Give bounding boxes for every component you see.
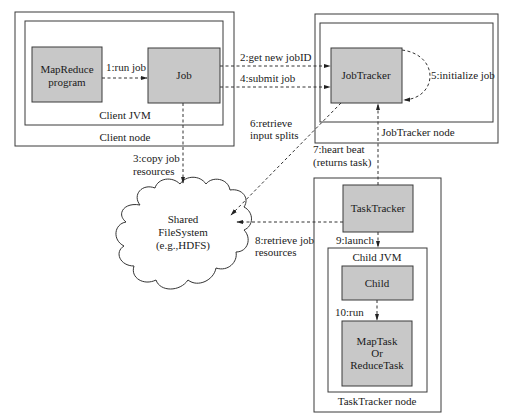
jobtracker-box: JobTracker (331, 48, 402, 103)
edge-submit-job: 4:submit job (220, 72, 330, 87)
edge-run-job-label: 1:run job (106, 61, 147, 73)
job-box: Job (148, 48, 220, 103)
mapreduce-program-label-1: MapReduce (40, 63, 93, 75)
task-label-1: MapTask (357, 335, 398, 347)
edge-retrieve-input-splits-label-1: 6:retrieve (250, 117, 292, 129)
edge-retrieve-job-resources-label-1: 8:retrieve job (255, 234, 314, 246)
edge-initialize-job-label: 5:initialize job (431, 69, 495, 81)
jobtracker-node-label: JobTracker node (381, 126, 454, 138)
edge-retrieve-job-resources-label-2: resources (255, 246, 297, 258)
shared-fs-label-3: (e.g.,HDFS) (156, 239, 210, 252)
child-label: Child (365, 277, 390, 289)
edge-run-label: 10:run (335, 306, 364, 318)
edge-copy-job-resources-label-2: resources (133, 165, 175, 177)
edge-retrieve-input-splits-label-2: input splits (250, 129, 299, 141)
edge-get-new-jobid: 2:get new jobID (220, 51, 330, 66)
job-label: Job (176, 69, 192, 81)
edge-run-job: 1:run job (102, 61, 147, 78)
shared-fs-label-1: Shared (168, 213, 199, 225)
client-node-label: Client node (99, 131, 150, 143)
edge-heart-beat: 7:heart beat (returns task) (313, 104, 378, 185)
edge-heart-beat-label-1: 7:heart beat (313, 143, 365, 155)
client-jvm-label: Client JVM (99, 109, 151, 121)
edge-heart-beat-label-2: (returns task) (313, 156, 372, 169)
task-box: MapTask Or ReduceTask (342, 321, 412, 386)
edge-launch: 9:launch (336, 232, 378, 247)
tasktracker-box: TaskTracker (343, 185, 413, 232)
child-jvm-label: Child JVM (352, 251, 401, 263)
jobtracker-label: JobTracker (341, 69, 390, 81)
task-label-3: ReduceTask (350, 359, 404, 371)
tasktracker-node-label: TaskTracker node (338, 395, 417, 407)
edge-get-new-jobid-label: 2:get new jobID (240, 51, 312, 63)
tasktracker-label: TaskTracker (351, 202, 406, 214)
mapreduce-program-box: MapReduce program (32, 47, 102, 102)
edge-launch-label: 9:launch (336, 234, 374, 246)
mapreduce-program-label-2: program (48, 76, 86, 88)
edge-run: 10:run (335, 300, 377, 320)
shared-fs-label-2: FileSystem (158, 226, 208, 238)
child-box: Child (342, 266, 413, 300)
mapreduce-job-diagram: Client node Client JVM MapReduce program… (0, 0, 507, 420)
task-label-2: Or (371, 347, 383, 359)
shared-filesystem-cloud: Shared FileSystem (e.g.,HDFS) (116, 177, 252, 289)
edge-retrieve-job-resources: 8:retrieve job resources (237, 222, 343, 258)
edge-submit-job-label: 4:submit job (240, 72, 296, 84)
edge-copy-job-resources-label-1: 3:copy job (133, 152, 180, 164)
edge-initialize-job: 5:initialize job (402, 50, 495, 100)
